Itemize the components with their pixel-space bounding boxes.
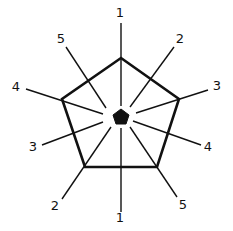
ray-label: 4	[12, 79, 20, 94]
ray-label: 1	[116, 210, 124, 225]
ray-label: 3	[29, 139, 37, 154]
ray-label: 2	[51, 198, 59, 213]
pentagon-diagram-svg: 1524334251	[0, 0, 233, 231]
ray-label: 3	[213, 78, 221, 93]
ray-label: 5	[179, 197, 187, 212]
ray-label: 2	[176, 31, 184, 46]
ray-line-2	[130, 47, 174, 107]
ray-label: 4	[204, 139, 212, 154]
ray-line-2	[62, 127, 111, 199]
ray-label: 1	[116, 5, 124, 20]
ray-line-5	[130, 127, 177, 197]
ray-line-5	[66, 47, 106, 108]
center-pentagon	[113, 109, 129, 124]
pentagon-diagram: 1524334251	[0, 0, 233, 231]
ray-label: 5	[57, 31, 65, 46]
